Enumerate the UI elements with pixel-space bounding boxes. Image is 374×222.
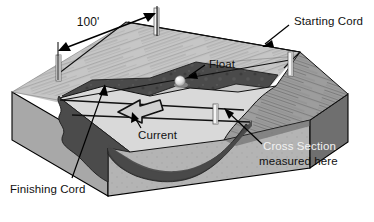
stake-right-back <box>288 52 293 76</box>
cross-section-label-line1: Cross Section <box>263 140 336 152</box>
float-ball <box>175 76 185 86</box>
dimension-label: 100' <box>77 15 100 29</box>
stake-cross-section <box>213 104 218 124</box>
callout-starting-cord: Starting Cord <box>262 15 363 47</box>
current-label: Current <box>138 129 178 141</box>
starting-cord-label: Starting Cord <box>294 15 363 27</box>
stream-block-diagram: 100' Starting Cord Float Current Cross S… <box>0 0 374 222</box>
figure-canvas: 100' Starting Cord Float Current Cross S… <box>0 0 374 222</box>
float-label: Float <box>209 58 236 70</box>
float-highlight-icon <box>176 77 179 80</box>
finishing-cord-label: Finishing Cord <box>10 183 86 195</box>
starting-cord-leader <box>265 25 289 44</box>
cross-section-label-line2: measured here <box>259 155 338 167</box>
